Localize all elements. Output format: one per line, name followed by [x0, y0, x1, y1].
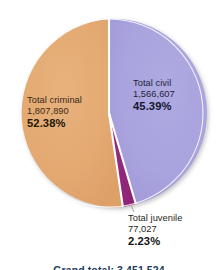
criminal-label-percent: 52.38%	[27, 117, 82, 130]
civil-label-value: 1,566,607	[133, 89, 175, 100]
civil-label-name: Total civil	[133, 78, 175, 89]
juvenile-label-name: Total juvenile	[128, 213, 182, 224]
grand-total-caption: Grand total: 3,451,524	[0, 265, 218, 270]
civil-label-percent: 45.39%	[133, 100, 175, 113]
slice-label-civil: Total civil 1,566,607 45.39%	[133, 78, 175, 114]
juvenile-label-value: 77,027	[128, 224, 182, 235]
pie-chart-canvas	[0, 0, 218, 270]
slice-label-juvenile: Total juvenile 77,027 2.23%	[128, 213, 182, 249]
pie-chart: Total criminal 1,807,890 52.38% Total ci…	[0, 0, 218, 270]
juvenile-label-percent: 2.23%	[128, 235, 182, 248]
slice-label-criminal: Total criminal 1,807,890 52.38%	[27, 95, 82, 131]
criminal-label-value: 1,807,890	[27, 106, 82, 117]
criminal-label-name: Total criminal	[27, 95, 82, 106]
